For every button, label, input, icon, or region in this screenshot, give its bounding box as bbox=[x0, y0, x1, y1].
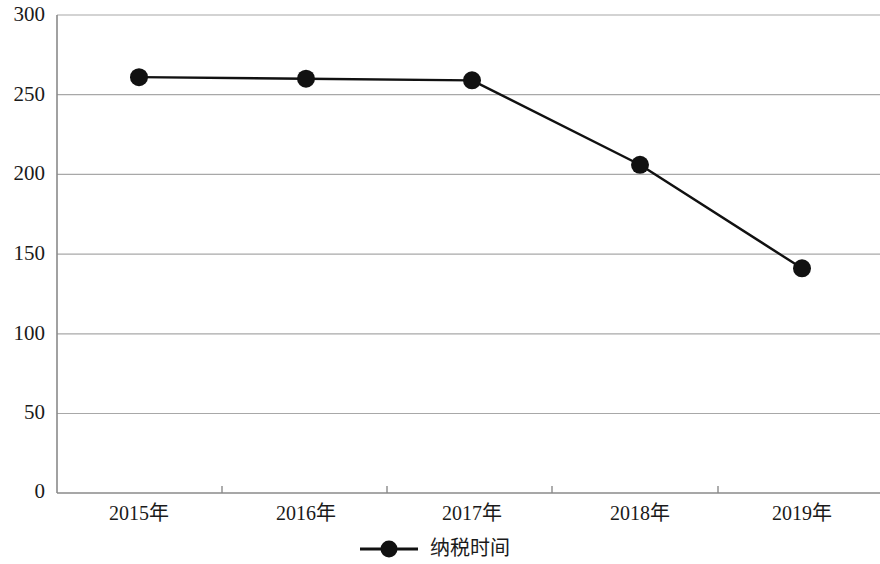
data-point-marker bbox=[463, 71, 481, 89]
x-axis-tick-label-2019: 2019年 bbox=[772, 502, 832, 524]
data-point-marker bbox=[130, 68, 148, 86]
y-axis-tick-label-0: 0 bbox=[35, 479, 46, 503]
chart-page: 300 250 200 150 100 50 0 2015年 2016年 201… bbox=[0, 0, 880, 564]
y-axis-tick-label-150: 150 bbox=[14, 241, 46, 265]
data-point-marker bbox=[297, 70, 315, 88]
legend-marker-icon bbox=[381, 541, 398, 558]
y-axis-tick-label-200: 200 bbox=[14, 161, 46, 185]
y-axis-tick-label-100: 100 bbox=[14, 321, 46, 345]
line-chart: 300 250 200 150 100 50 0 2015年 2016年 201… bbox=[0, 0, 880, 564]
x-axis-tick-label-2016: 2016年 bbox=[276, 502, 336, 524]
legend-label-nashui-shijian: 纳税时间 bbox=[430, 537, 510, 559]
x-axis-tick-label-2015: 2015年 bbox=[109, 502, 169, 524]
legend: 纳税时间 bbox=[360, 537, 510, 559]
data-point-marker bbox=[631, 156, 649, 174]
y-axis-tick-label-50: 50 bbox=[24, 400, 45, 424]
y-axis-tick-label-250: 250 bbox=[14, 82, 46, 106]
x-axis-tick-label-2018: 2018年 bbox=[610, 502, 670, 524]
data-point-marker bbox=[793, 259, 811, 277]
x-axis-tick-label-2017: 2017年 bbox=[442, 502, 502, 524]
y-axis-tick-label-300: 300 bbox=[14, 2, 46, 26]
